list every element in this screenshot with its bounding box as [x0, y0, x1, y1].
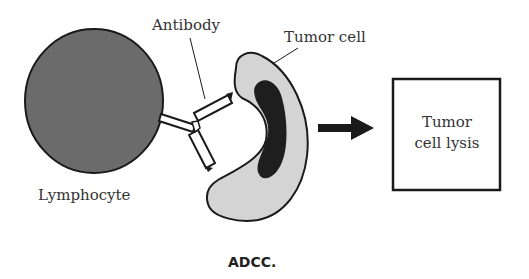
antibody-icon [159, 92, 233, 172]
tumor-cell-leader-line [274, 48, 298, 63]
antibody-label: Antibody [152, 16, 220, 34]
antibody-upper-arm [194, 95, 232, 121]
lymphocyte-label: Lymphocyte [38, 186, 130, 204]
antibody-leader-line [190, 38, 205, 99]
adcc-diagram: Antibody Tumor cell Lymphocyte Tumor cel… [0, 0, 529, 279]
result-line-2: cell lysis [392, 133, 502, 154]
figure-caption: ADCC. [228, 254, 276, 270]
antibody-lower-arm [189, 130, 215, 168]
result-line-1: Tumor [392, 112, 502, 133]
antibody-fc-stem [159, 114, 195, 132]
tumor-cell [207, 53, 308, 221]
lymphocyte-cell [25, 29, 163, 173]
tumor-cell-label: Tumor cell [284, 28, 366, 46]
right-arrow-icon [318, 116, 374, 140]
result-box-text: Tumor cell lysis [392, 112, 502, 154]
